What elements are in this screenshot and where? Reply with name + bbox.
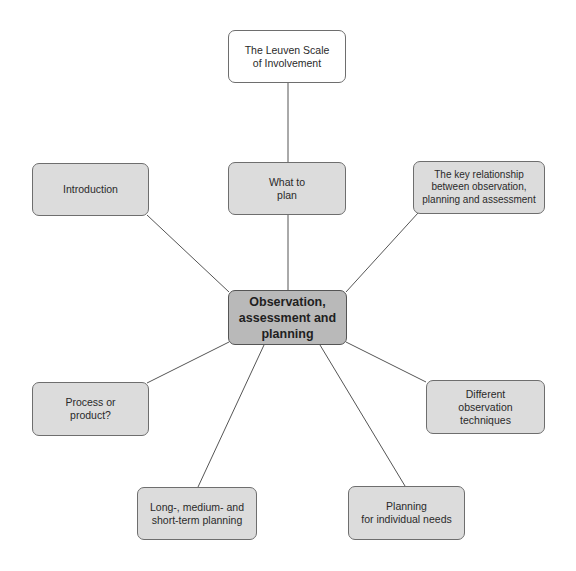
node-observation-techniques: Different observation techniques bbox=[426, 380, 545, 434]
edge-individual-needs-center bbox=[320, 345, 405, 486]
edge-introduction-center bbox=[147, 215, 229, 292]
edge-long-term-center bbox=[198, 345, 264, 487]
edge-observation-techniques-center bbox=[346, 342, 426, 382]
node-center-topic: Observation, assessment and planning bbox=[228, 290, 347, 345]
edge-key-relationship-center bbox=[346, 213, 418, 292]
node-leuven-scale: The Leuven Scale of Involvement bbox=[228, 30, 346, 83]
edge-process-product-center bbox=[147, 342, 229, 383]
node-long-medium-short-term: Long-, medium- and short-term planning bbox=[137, 487, 257, 540]
node-introduction: Introduction bbox=[32, 163, 149, 216]
node-individual-needs: Planning for individual needs bbox=[348, 486, 465, 540]
node-key-relationship: The key relationship between observation… bbox=[413, 161, 545, 214]
node-process-product: Process or product? bbox=[32, 382, 149, 436]
mind-map-diagram: The Leuven Scale of Involvement Introduc… bbox=[0, 0, 576, 571]
node-what-to-plan: What to plan bbox=[228, 162, 346, 215]
connector-lines bbox=[0, 0, 576, 571]
